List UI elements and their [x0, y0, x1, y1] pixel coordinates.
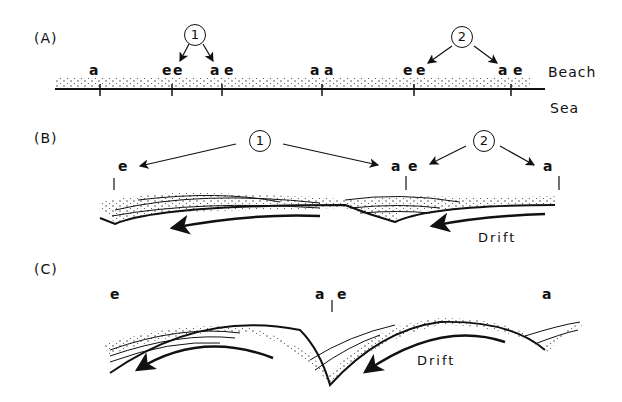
marker-e: e	[110, 286, 120, 302]
panel-a-label: (A)	[34, 30, 58, 46]
drift-label: Drift	[417, 353, 455, 368]
beach-label: Beach	[548, 64, 596, 80]
panel-b-drawing	[100, 144, 559, 228]
marker-a: a	[498, 62, 507, 78]
marker-e: e	[408, 158, 418, 174]
drift-label: Drift	[478, 230, 516, 245]
marker-e: e	[337, 286, 347, 302]
callout-1-badge: 1	[249, 130, 271, 152]
diagram-drawing	[0, 0, 622, 402]
marker-a: a	[391, 158, 400, 174]
marker-e: e	[162, 62, 172, 78]
callout-2-badge: 2	[451, 26, 473, 48]
marker-a: a	[210, 62, 219, 78]
marker-a: a	[324, 62, 333, 78]
panel-a-shoreline	[55, 44, 545, 96]
marker-a: a	[542, 286, 551, 302]
sea-label: Sea	[550, 100, 579, 116]
marker-a: a	[89, 62, 98, 78]
marker-e: e	[173, 62, 183, 78]
marker-e: e	[224, 62, 234, 78]
panel-c-drawing	[102, 300, 582, 385]
marker-e: e	[403, 62, 413, 78]
marker-a: a	[543, 158, 552, 174]
callout-2-badge: 2	[473, 130, 495, 152]
marker-e: e	[513, 62, 523, 78]
panel-c-label: (C)	[34, 261, 58, 277]
marker-e: e	[118, 158, 128, 174]
marker-a: a	[310, 62, 319, 78]
marker-e: e	[416, 62, 426, 78]
marker-a: a	[315, 286, 324, 302]
panel-b-label: (B)	[34, 130, 58, 146]
callout-1-badge: 1	[184, 24, 206, 46]
